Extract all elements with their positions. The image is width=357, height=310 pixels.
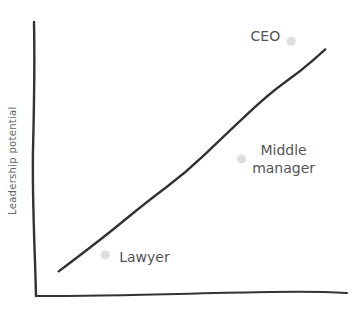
- y-axis-label: Leadership potential: [7, 106, 18, 215]
- point-label-line: manager: [252, 160, 315, 176]
- points-layer: CEOMiddlemanagerLawyer: [101, 28, 316, 265]
- point-middle-manager: [237, 155, 246, 164]
- point-ceo: [287, 37, 296, 46]
- point-label-line: Lawyer: [119, 249, 170, 265]
- chart: Leadership potential CEOMiddlemanagerLaw…: [0, 0, 357, 310]
- x-axis: [37, 292, 347, 296]
- point-label-lawyer: Lawyer: [119, 249, 170, 265]
- point-label-middle-manager: Middlemanager: [252, 142, 315, 176]
- point-label-ceo: CEO: [251, 28, 281, 44]
- point-lawyer: [101, 250, 110, 259]
- point-label-line: CEO: [251, 28, 281, 44]
- point-label-line: Middle: [260, 142, 306, 158]
- y-axis: [33, 22, 36, 296]
